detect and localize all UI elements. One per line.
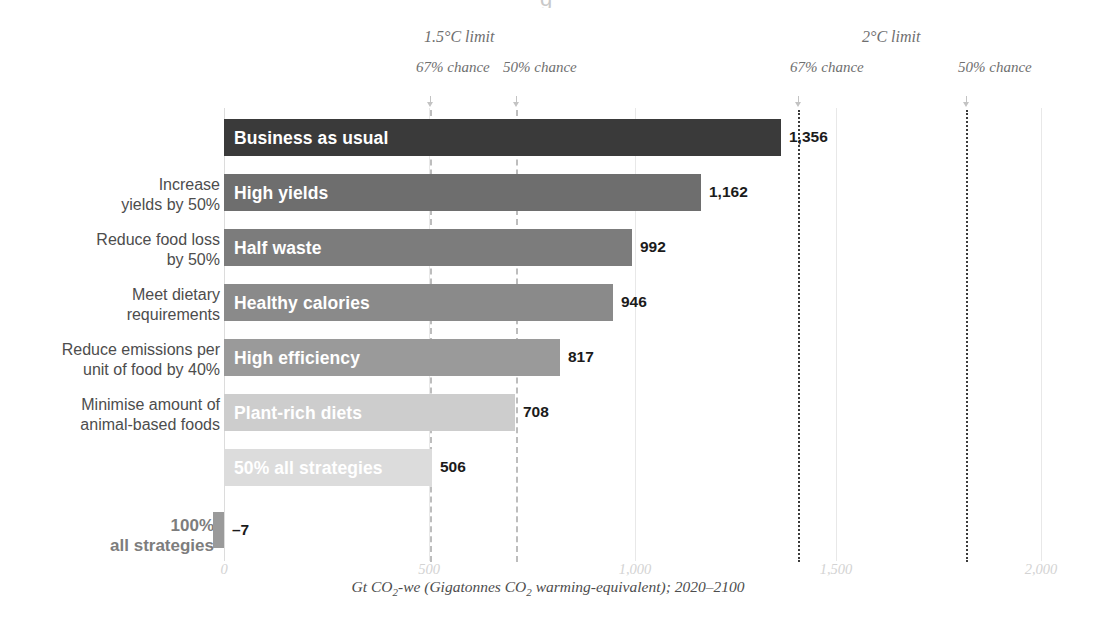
- threshold-label-1.5c: 1.5°C limit: [424, 28, 494, 46]
- x-axis-caption: Gt CO2-we (Gigatonnes CO2 warming-equiva…: [0, 578, 1096, 598]
- bar-label: High efficiency: [234, 347, 360, 368]
- bar-value: 992: [640, 238, 666, 256]
- bar-plant-rich-diets: Plant-rich diets: [224, 394, 515, 431]
- side-note-half-waste: Reduce food loss by 50%: [0, 230, 220, 270]
- bar-high-yields: High yields: [224, 174, 701, 211]
- bar-50-all-strategies: 50% all strategies: [224, 449, 432, 486]
- side-note-high-yields: Increase yields by 50%: [0, 175, 220, 215]
- threshold-arrow-icon-2c-67: [794, 96, 803, 108]
- threshold-line-2c-50: [966, 110, 968, 562]
- gridline-1500: [836, 108, 837, 561]
- xtick-1000: 1,000: [619, 561, 652, 578]
- threshold-chance-1.5c-67: 67% chance: [416, 58, 490, 76]
- bar-label: Business as usual: [234, 127, 388, 148]
- xtick-2000: 2,000: [1025, 561, 1058, 578]
- xtick-1500: 1,500: [820, 561, 853, 578]
- bar-value: 946: [621, 293, 647, 311]
- plot-area: 0 500 1,000 1,500 2,000 1.5°C limit 2°C …: [0, 0, 1096, 617]
- bar-label: Half waste: [234, 237, 322, 258]
- side-note-healthy-calories: Meet dietary requirements: [0, 285, 220, 325]
- threshold-chance-2c-67: 67% chance: [790, 58, 864, 76]
- side-note-high-efficiency: Reduce emissions per unit of food by 40%: [0, 340, 220, 380]
- threshold-chance-2c-50: 50% chance: [958, 58, 1032, 76]
- threshold-line-2c-67: [798, 110, 800, 562]
- side-note-100-all-strategies: 100% all strategies: [0, 516, 214, 556]
- threshold-label-2c: 2°C limit: [862, 28, 920, 46]
- side-note-plant-rich-diets: Minimise amount of animal-based foods: [0, 395, 220, 435]
- bar-value: 817: [568, 348, 594, 366]
- bar-label: 50% all strategies: [234, 457, 383, 478]
- chart-root: g 0 500 1,000 1,500 2,000 1.5°C limit 2°…: [0, 0, 1096, 617]
- bar-value: –7: [232, 521, 249, 539]
- bar-value: 1,162: [709, 183, 748, 201]
- bar-label: Plant-rich diets: [234, 402, 362, 423]
- bar-healthy-calories: Healthy calories: [224, 284, 613, 321]
- threshold-chance-1.5c-50: 50% chance: [503, 58, 577, 76]
- bar-high-efficiency: High efficiency: [224, 339, 560, 376]
- x-caption-pre: Gt CO: [352, 578, 393, 595]
- xtick-500: 500: [418, 561, 440, 578]
- threshold-arrow-icon-1.5c-67: [426, 96, 435, 108]
- bar-label: High yields: [234, 182, 328, 203]
- bar-value: 1,356: [789, 128, 828, 146]
- bar-business-as-usual: Business as usual: [224, 119, 781, 156]
- x-caption-mid: -we (Gigatonnes CO: [398, 578, 526, 595]
- xtick-0: 0: [220, 561, 227, 578]
- threshold-arrow-icon-2c-50: [962, 96, 971, 108]
- gridline-2000: [1041, 108, 1042, 561]
- threshold-arrow-icon-1.5c-50: [512, 96, 521, 108]
- bar-label: Healthy calories: [234, 292, 370, 313]
- bar-value: 506: [440, 458, 466, 476]
- bar-value: 708: [523, 403, 549, 421]
- bar-half-waste: Half waste: [224, 229, 632, 266]
- x-caption-post: warming-equivalent); 2020–2100: [532, 578, 745, 595]
- bar-100-all-strategies: [213, 512, 224, 548]
